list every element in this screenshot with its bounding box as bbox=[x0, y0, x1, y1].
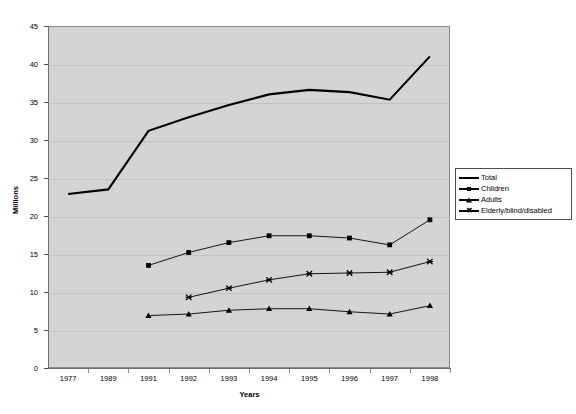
x-marker-icon bbox=[226, 286, 232, 291]
square-marker-icon bbox=[428, 217, 433, 222]
square-marker-icon bbox=[458, 183, 480, 194]
legend-label: Adults bbox=[480, 195, 502, 204]
series-total bbox=[68, 56, 430, 194]
series-line bbox=[189, 262, 430, 298]
square-marker-icon bbox=[387, 242, 392, 247]
legend-item-adults[interactable]: Adults bbox=[458, 194, 569, 205]
triangle-marker-icon bbox=[427, 303, 433, 309]
x-marker-icon bbox=[306, 271, 312, 276]
x-marker-icon bbox=[266, 277, 272, 282]
x-marker-icon bbox=[346, 270, 352, 275]
series-children bbox=[146, 217, 432, 267]
x-marker-icon bbox=[186, 295, 192, 300]
square-marker-icon bbox=[267, 233, 272, 238]
square-marker-icon bbox=[146, 263, 151, 268]
legend-label: Elderly/blind/disabled bbox=[480, 206, 552, 215]
x-marker-icon bbox=[427, 259, 433, 264]
square-marker-icon bbox=[347, 236, 352, 241]
series-adults bbox=[145, 303, 433, 318]
square-marker-icon bbox=[227, 240, 232, 245]
line-icon bbox=[458, 172, 480, 183]
line-chart: 45 40 35 30 25 20 15 10 5 0 Millions 197… bbox=[0, 0, 576, 414]
square-marker-icon bbox=[307, 233, 312, 238]
series-line bbox=[149, 306, 430, 316]
triangle-marker-icon bbox=[458, 194, 480, 205]
series-line bbox=[68, 56, 430, 194]
legend-item-children[interactable]: Children bbox=[458, 183, 569, 194]
x-marker-icon: ✖ bbox=[458, 205, 480, 216]
figure-caption bbox=[0, 403, 576, 414]
square-marker-icon bbox=[186, 250, 191, 255]
legend: Total Children Adults ✖ Elderly/blind/di… bbox=[455, 168, 572, 220]
legend-item-total[interactable]: Total bbox=[458, 172, 569, 183]
legend-item-elderly[interactable]: ✖ Elderly/blind/disabled bbox=[458, 205, 569, 216]
legend-label: Total bbox=[480, 173, 497, 182]
legend-label: Children bbox=[480, 184, 509, 193]
x-marker-icon bbox=[387, 270, 393, 275]
series-elderly-blind-disabled bbox=[186, 259, 434, 300]
